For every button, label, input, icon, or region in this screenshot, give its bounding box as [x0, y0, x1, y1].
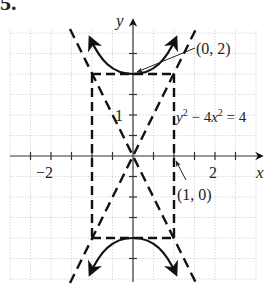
- x-tick-label-2: 2: [209, 164, 217, 181]
- x-axis-label: x: [255, 163, 264, 182]
- equation-label: y2 − 4x2 = 4: [174, 107, 247, 125]
- upper-branch-left: [90, 38, 133, 74]
- figure-number: 5.: [0, 0, 17, 15]
- y-axis-label: y: [114, 11, 124, 30]
- x-tick-label-neg2: −2: [36, 164, 53, 181]
- y-tick-label-1: 1: [115, 107, 123, 124]
- vertex-annotation: (0, 2): [196, 40, 231, 58]
- lower-branch-right: [133, 238, 176, 274]
- hyperbola-figure: 5.: [0, 0, 271, 285]
- lower-branch-left: [90, 238, 133, 274]
- upper-branch-right: [133, 38, 176, 74]
- point-annotation-1-0: (1, 0): [177, 186, 212, 204]
